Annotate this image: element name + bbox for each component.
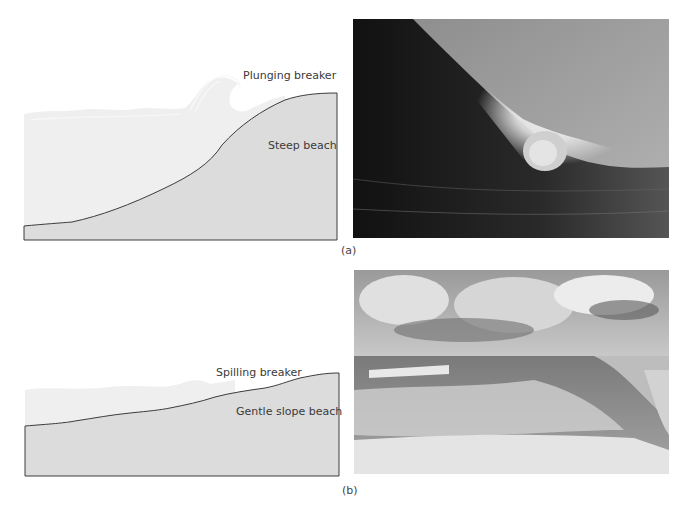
gentle-slope-beach-label: Gentle slope beach xyxy=(236,405,342,418)
plunging-breaker-photo xyxy=(353,19,669,238)
steep-beach-illustration xyxy=(0,0,345,250)
plunging-breaker-label: Plunging breaker xyxy=(243,69,336,82)
gentle-beach-diagram: Spilling breaker Gentle slope beach xyxy=(0,340,345,500)
gentle-beach-illustration xyxy=(0,340,345,500)
steep-beach-label: Steep beach xyxy=(268,139,337,152)
caption-b: (b) xyxy=(342,484,358,497)
steep-beach-diagram: Plunging breaker Steep beach xyxy=(0,0,345,250)
beach-photo-image xyxy=(354,270,669,474)
spilling-breaker-photo xyxy=(354,270,669,474)
spilling-breaker-label: Spilling breaker xyxy=(216,366,302,379)
caption-a: (a) xyxy=(341,244,356,257)
wave-photo-image xyxy=(353,19,669,238)
